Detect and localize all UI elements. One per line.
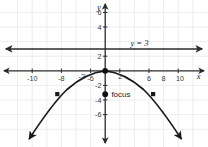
x-tick-label: -6	[87, 74, 93, 83]
x-tick-label: 10	[176, 74, 184, 83]
x-tick-label: 8	[162, 74, 166, 83]
y-tick-label: 2	[97, 52, 101, 61]
focus-point	[102, 91, 108, 97]
graph-figure: -10 -8 -6 -2 2 6 8 10 6 4 2 -2 -4 -6 y x…	[0, 0, 208, 147]
coordinate-plane-svg: -10 -8 -6 -2 2 6 8 10 6 4 2 -2 -4 -6 y x…	[0, 0, 208, 147]
x-tick-label: -10	[27, 74, 37, 83]
y-tick-label: -2	[95, 81, 101, 90]
y-tick-label: -6	[95, 110, 101, 119]
directrix-equation-label: y = 3	[129, 38, 148, 48]
x-axis-label: x	[196, 71, 201, 81]
x-tick-label: 2	[118, 72, 122, 81]
vertex-point	[102, 68, 108, 74]
y-tick-label: 4	[97, 23, 101, 32]
x-tick-label: -2	[79, 72, 85, 81]
x-tick-label: -8	[58, 74, 64, 83]
focus-label: focus	[111, 90, 130, 99]
y-axis-label: y	[96, 2, 101, 12]
x-tick-label: 6	[147, 74, 151, 83]
y-tick-label: -4	[95, 96, 101, 105]
latus-rectum-left-marker	[55, 92, 59, 96]
latus-rectum-right-marker	[151, 92, 155, 96]
